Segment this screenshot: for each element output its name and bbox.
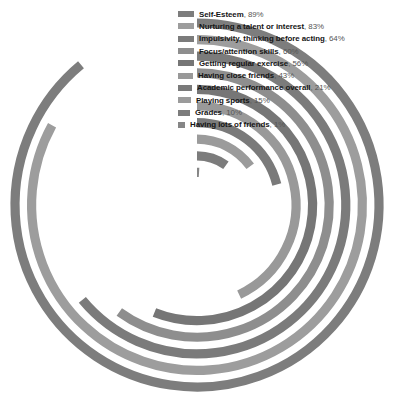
legend-swatch	[178, 85, 192, 91]
legend-swatch	[178, 110, 190, 116]
legend-value: 64%	[329, 34, 345, 43]
legend-item[interactable]: Having close friends, 43%	[178, 69, 393, 81]
legend-text: Impulsivity, thinking before acting, 64%	[199, 34, 345, 43]
legend-value: 1%	[274, 120, 285, 129]
legend-label: Playing sports	[196, 96, 250, 105]
legend-item[interactable]: Having lots of friends, 1%	[178, 119, 393, 131]
legend-text: Playing sports, 15%	[196, 96, 270, 105]
legend-text: Having close friends, 43%	[198, 71, 294, 80]
legend-value: 89%	[248, 10, 264, 19]
radial-arc[interactable]	[197, 156, 226, 165]
legend-item[interactable]: Playing sports, 15%	[178, 94, 393, 106]
legend-text: Academic performance overall, 21%	[197, 83, 330, 92]
legend-swatch	[178, 11, 194, 17]
legend-label: Academic performance overall	[197, 83, 311, 92]
legend-text: Getting regular exercise, 56%	[199, 59, 308, 68]
legend-label: Focus/attention skills	[199, 47, 279, 56]
radial-bar-chart: Self-Esteem, 89%Nurturing a talent or in…	[0, 0, 397, 408]
legend-value: 83%	[308, 22, 324, 31]
legend-swatch	[178, 60, 194, 66]
legend-label: Self-Esteem	[199, 10, 244, 19]
chart-legend: Self-Esteem, 89%Nurturing a talent or in…	[178, 8, 393, 131]
legend-item[interactable]: Academic performance overall, 21%	[178, 82, 393, 94]
legend-swatch	[178, 36, 194, 42]
legend-item[interactable]: Getting regular exercise, 56%	[178, 57, 393, 69]
legend-text: Focus/attention skills, 60%	[199, 47, 299, 56]
legend-value: 21%	[315, 83, 331, 92]
legend-item[interactable]: Nurturing a talent or interest, 83%	[178, 20, 393, 32]
legend-label: Grades	[195, 108, 222, 117]
legend-item[interactable]: Focus/attention skills, 60%	[178, 45, 393, 57]
legend-label: Impulsivity, thinking before acting	[199, 34, 325, 43]
legend-label: Getting regular exercise	[199, 59, 288, 68]
legend-value: 56%	[292, 59, 308, 68]
legend-item[interactable]: Grades, 10%	[178, 106, 393, 118]
legend-swatch	[178, 73, 193, 79]
legend-item[interactable]: Self-Esteem, 89%	[178, 8, 393, 20]
legend-swatch	[178, 122, 185, 128]
legend-label: Having close friends	[198, 71, 274, 80]
legend-value: 60%	[283, 47, 299, 56]
legend-value: 10%	[226, 108, 242, 117]
legend-value: 43%	[278, 71, 294, 80]
legend-text: Having lots of friends, 1%	[190, 120, 285, 129]
legend-swatch	[178, 97, 191, 103]
legend-text: Grades, 10%	[195, 108, 242, 117]
legend-label: Nurturing a talent or interest	[199, 22, 304, 31]
legend-value: 15%	[254, 96, 270, 105]
legend-text: Self-Esteem, 89%	[199, 10, 264, 19]
legend-item[interactable]: Impulsivity, thinking before acting, 64%	[178, 33, 393, 45]
legend-swatch	[178, 23, 194, 29]
legend-text: Nurturing a talent or interest, 83%	[199, 22, 324, 31]
legend-swatch	[178, 48, 194, 54]
legend-label: Having lots of friends	[190, 120, 270, 129]
